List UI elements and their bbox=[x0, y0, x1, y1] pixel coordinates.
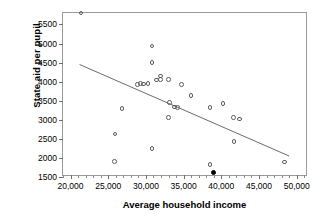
data-point bbox=[231, 115, 236, 120]
data-point bbox=[166, 115, 171, 120]
data-point bbox=[208, 105, 213, 110]
data-point-highlighted bbox=[211, 170, 216, 175]
regression-line bbox=[63, 13, 308, 177]
data-point bbox=[150, 146, 155, 151]
data-point bbox=[112, 159, 117, 164]
data-point bbox=[120, 106, 125, 111]
y-tick-label: 4500 bbox=[38, 58, 57, 68]
y-tick-label: 4000 bbox=[38, 77, 57, 87]
plot-area: 150020002500300035004000450050005500 20,… bbox=[62, 12, 307, 176]
x-tick-label: 40,000 bbox=[208, 181, 234, 191]
plot-inner: 150020002500300035004000450050005500 20,… bbox=[63, 13, 306, 175]
data-point bbox=[135, 82, 140, 87]
y-tick-label: 3500 bbox=[38, 96, 57, 106]
y-tick-label: 2500 bbox=[38, 134, 57, 144]
y-tick-label: 5500 bbox=[38, 19, 57, 29]
data-point bbox=[150, 60, 155, 65]
y-tick-label: 5000 bbox=[38, 39, 57, 49]
data-point bbox=[166, 77, 171, 82]
y-tick-label: 3000 bbox=[38, 115, 57, 125]
x-tick-label: 50,000 bbox=[284, 181, 310, 191]
x-tick-label: 45,000 bbox=[246, 181, 272, 191]
y-tick-label: 2000 bbox=[38, 153, 57, 163]
y-tick-label: 1500 bbox=[38, 172, 57, 182]
data-point bbox=[221, 101, 226, 106]
x-axis-title: Average household income bbox=[62, 199, 307, 210]
x-tick-label: 30,000 bbox=[133, 181, 159, 191]
data-point bbox=[237, 117, 242, 122]
x-tick-label: 35,000 bbox=[171, 181, 197, 191]
x-tick-label: 20,000 bbox=[58, 181, 84, 191]
data-point bbox=[179, 82, 184, 87]
data-point bbox=[167, 100, 172, 105]
x-tick-label: 25,000 bbox=[95, 181, 121, 191]
data-point bbox=[175, 105, 180, 110]
scatter-plot-figure: State aid per pupil Average household in… bbox=[0, 0, 323, 220]
